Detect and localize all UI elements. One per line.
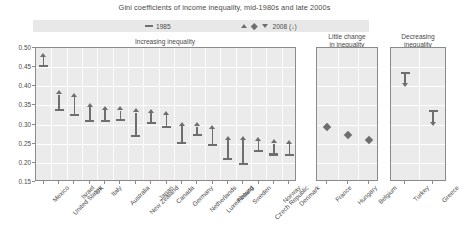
marker-1985 (162, 126, 171, 128)
marker-2008 (286, 140, 292, 144)
x-axis-label: Mexico (51, 184, 70, 203)
x-axis-tick-mark (258, 181, 259, 184)
x-axis-tick-mark (89, 181, 90, 184)
legend-label-2008: 2008 (↓) (273, 23, 297, 30)
x-axis-tick-mark (227, 181, 228, 184)
y-axis-tick-label: 0.20 (1, 158, 31, 165)
marker-2008 (163, 111, 169, 115)
marker-2008 (402, 83, 408, 87)
gridline-horizontal (317, 67, 377, 68)
connector-line (432, 111, 434, 122)
panel-title-little-change-line1: Little change (316, 33, 378, 41)
marker-1985 (401, 72, 410, 74)
x-axis-tick-mark (326, 181, 327, 184)
gridline-vertical (266, 48, 267, 180)
gridline-vertical (190, 48, 191, 180)
marker-1985 (429, 110, 438, 112)
marker-1985 (55, 109, 64, 111)
gridline-vertical (338, 48, 339, 180)
x-axis-tick-mark (150, 181, 151, 184)
marker-2008 (40, 53, 46, 57)
gridline-vertical (51, 48, 52, 180)
marker-1985 (131, 135, 140, 137)
gridline-vertical (419, 48, 420, 180)
marker-2008 (255, 137, 261, 141)
marker-2008 (240, 136, 246, 140)
panel-title-little-change: Little change in inequality (316, 33, 378, 48)
x-axis-tick-mark (135, 181, 136, 184)
gridline-vertical (205, 48, 206, 180)
marker-1985 (85, 120, 94, 122)
panel-little-change (316, 47, 378, 181)
x-axis-tick-mark (404, 181, 405, 184)
y-axis-tick-label: 0.30 (1, 120, 31, 127)
gridline-vertical (282, 48, 283, 180)
gridline-horizontal (391, 182, 445, 183)
gridline-horizontal (391, 67, 445, 68)
marker-2008 (71, 93, 77, 97)
marker-2008 (194, 122, 200, 126)
gridline-horizontal (317, 105, 377, 106)
panel-title-decreasing-line1: Decreasing (390, 33, 446, 41)
marker-1985 (101, 120, 110, 122)
y-axis-tick-label: 0.15 (1, 178, 31, 185)
connector-line (135, 113, 137, 136)
gridline-horizontal (391, 86, 445, 87)
triangle-down-icon (262, 24, 268, 28)
connector-line (227, 140, 229, 159)
marker-1985 (177, 142, 186, 144)
x-axis-label: Turkey (412, 184, 431, 203)
y-axis-tick-label: 0.35 (1, 101, 31, 108)
gridline-vertical (143, 48, 144, 180)
marker-1985 (239, 163, 248, 165)
x-axis-tick-mark (43, 181, 44, 184)
x-axis-tick-mark (166, 181, 167, 184)
gridline-vertical (174, 48, 175, 180)
x-axis-label: Australia (129, 184, 152, 207)
marker-2008 (209, 125, 215, 129)
gridline-horizontal (36, 67, 295, 68)
x-axis-label: Belgium (376, 184, 397, 205)
gridline-horizontal (36, 86, 295, 87)
connector-line (74, 97, 76, 114)
gridline-horizontal (36, 144, 295, 145)
gridline-vertical (67, 48, 68, 180)
y-axis-tick-label: 0.50 (1, 44, 31, 51)
x-axis-label: Hungary (356, 184, 378, 206)
x-axis-label: Italy (110, 184, 123, 197)
gridline-vertical (236, 48, 237, 180)
x-axis-tick-mark (212, 181, 213, 184)
marker-2008 (148, 109, 154, 113)
y-axis-tick-mark (32, 181, 35, 182)
marker-1985 (70, 114, 79, 116)
marker-1985 (223, 158, 232, 160)
panel-increasing (35, 47, 296, 181)
gridline-vertical (113, 48, 114, 180)
triangle-up-icon (241, 24, 247, 28)
gridline-vertical (220, 48, 221, 180)
x-axis-tick-mark (104, 181, 105, 184)
y-axis-tick-label: 0.45 (1, 63, 31, 70)
marker-2008 (56, 90, 62, 94)
x-axis-tick-mark (196, 181, 197, 184)
marker-1985 (285, 154, 294, 156)
marker-1985 (254, 150, 263, 152)
connector-line (58, 95, 60, 111)
x-axis-label: Greece (440, 184, 460, 204)
gridline-vertical (82, 48, 83, 180)
x-axis-tick-mark (119, 181, 120, 184)
gridline-vertical (251, 48, 252, 180)
chart-legend: 1985 2008 (↓) (33, 20, 369, 32)
y-axis-tick-label: 0.25 (1, 139, 31, 146)
connector-line (181, 126, 183, 143)
legend-item-2008: 2008 (↓) (241, 20, 297, 32)
connector-line (404, 73, 406, 83)
marker-2008 (225, 136, 231, 140)
x-axis-tick-mark (58, 181, 59, 184)
x-axis-tick-mark (347, 181, 348, 184)
marker-2008 (102, 106, 108, 110)
marker-1985 (147, 122, 156, 124)
marker-2008 (133, 108, 139, 112)
marker-2008 (430, 122, 436, 126)
x-axis-tick-mark (432, 181, 433, 184)
